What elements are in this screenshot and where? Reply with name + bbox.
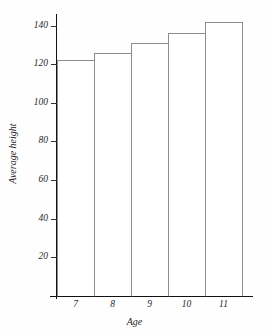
y-axis-tick-label: 20: [0, 252, 48, 262]
x-axis-title: Age: [0, 316, 269, 327]
y-axis-title: Average height: [7, 84, 18, 224]
bar-chart: 20406080100120140 7891011 Age Average he…: [0, 0, 269, 336]
x-axis-tick-label: 8: [95, 299, 131, 310]
x-axis-tick-label: 9: [132, 299, 168, 310]
y-axis-tick-label-text: 20: [8, 252, 48, 262]
y-axis-tick-label: 120: [0, 59, 48, 69]
x-axis-tick-label: 10: [169, 299, 205, 310]
x-axis-tick-label: 7: [58, 299, 94, 310]
bar: [205, 22, 243, 296]
y-axis-tick-label-text: 120: [8, 59, 48, 69]
y-axis-tick-label: 140: [0, 21, 48, 31]
x-axis-line: [50, 296, 253, 297]
bar: [168, 33, 206, 296]
x-axis-tick-label: 11: [206, 299, 242, 310]
bar: [57, 60, 95, 296]
y-axis-tick-label-text: 140: [8, 21, 48, 31]
plot-area: [57, 14, 242, 296]
bar: [131, 43, 169, 296]
bar: [94, 53, 132, 296]
